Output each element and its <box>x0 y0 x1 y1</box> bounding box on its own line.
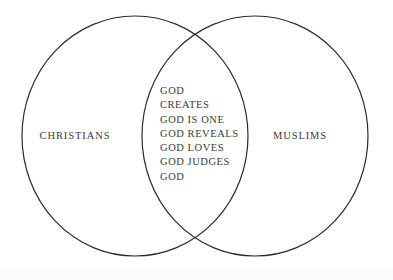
intersection-item: GOD <box>160 84 250 98</box>
intersection-item: GOD <box>160 170 250 184</box>
intersection-item-list: GOD CREATES GOD IS ONE GOD REVEALS GOD L… <box>160 84 250 184</box>
intersection-item: GOD IS ONE <box>160 113 250 127</box>
page-edge-band <box>0 270 393 280</box>
left-set-label: CHRISTIANS <box>15 130 135 142</box>
intersection-item: GOD LOVES <box>160 141 250 155</box>
intersection-item: GOD REVEALS <box>160 127 250 141</box>
intersection-item: GOD JUDGES <box>160 155 250 169</box>
right-set-label: MUSLIMS <box>240 130 360 142</box>
intersection-item: CREATES <box>160 98 250 112</box>
venn-diagram-canvas: CHRISTIANS MUSLIMS GOD CREATES GOD IS ON… <box>0 0 393 280</box>
